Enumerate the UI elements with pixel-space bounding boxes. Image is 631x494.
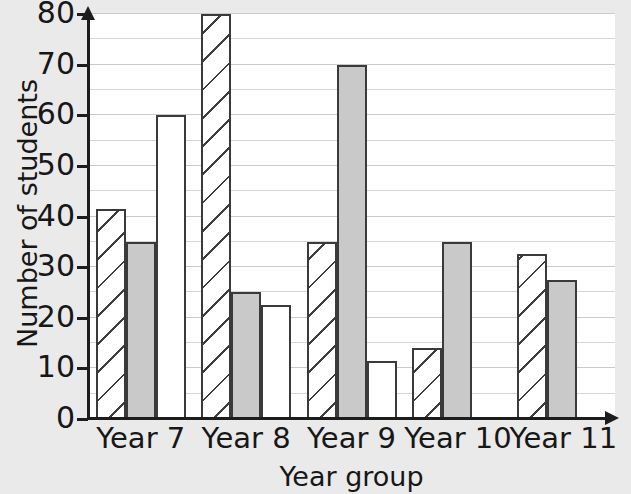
gridline-minor <box>88 38 615 39</box>
x-tick-label: Year 8 <box>193 424 298 453</box>
y-tick-mark <box>77 165 88 168</box>
bar <box>307 242 337 419</box>
bar <box>412 348 442 419</box>
gridline-major <box>88 13 615 14</box>
x-axis-title: Year group <box>88 461 615 492</box>
y-tick-label: 80 <box>17 0 75 28</box>
x-tick-label: Year 7 <box>88 424 193 453</box>
bar <box>231 292 261 419</box>
x-tick-label: Year 10 <box>404 424 509 453</box>
y-axis-title: Number of students <box>12 39 43 389</box>
bar <box>367 361 397 419</box>
y-tick-label: 0 <box>17 403 75 433</box>
chart-screenshot: 01020304050607080 Number of students Yea… <box>0 0 631 494</box>
bar <box>126 242 156 419</box>
y-tick-mark <box>77 216 88 219</box>
x-axis-tick-labels: Year 7Year 8Year 9Year 10Year 11 <box>88 424 615 464</box>
y-tick-mark <box>77 64 88 67</box>
bar <box>442 242 472 419</box>
plot-area <box>88 14 615 419</box>
bar <box>337 65 367 419</box>
x-tick-label: Year 9 <box>299 424 404 453</box>
bar <box>201 14 231 419</box>
y-tick-mark <box>77 114 88 117</box>
y-tick-mark <box>77 13 88 16</box>
bar <box>96 209 126 419</box>
y-tick-mark <box>77 317 88 320</box>
y-tick-mark <box>77 266 88 269</box>
y-tick-mark <box>77 367 88 370</box>
bar <box>261 305 291 419</box>
bar <box>517 254 547 419</box>
y-axis-line <box>87 18 90 419</box>
x-tick-label: Year 11 <box>510 424 615 453</box>
x-axis-line <box>87 417 608 420</box>
y-tick-mark <box>77 418 88 421</box>
bar <box>547 280 577 419</box>
bar <box>156 115 186 419</box>
